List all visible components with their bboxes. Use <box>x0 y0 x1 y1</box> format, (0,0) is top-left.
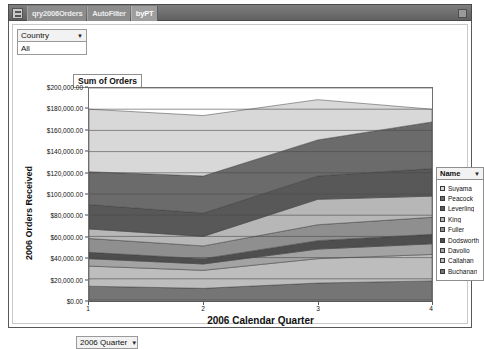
pivotchart-canvas: Country ▼ All Sum of Orders 2006 Orders … <box>12 24 468 324</box>
legend-item[interactable]: Buchanan <box>440 266 481 276</box>
x-axis-tick-label: 4 <box>429 305 433 312</box>
country-field-button[interactable]: Country ▼ <box>17 29 87 42</box>
legend-swatch-icon <box>440 196 445 201</box>
legend-item-label: Dodsworth <box>448 237 479 244</box>
legend-item-label: Leverling <box>448 205 474 212</box>
stacked-area-chart <box>89 88 432 300</box>
legend-item[interactable]: Peacock <box>440 193 481 203</box>
chevron-down-icon[interactable]: ▼ <box>131 340 137 346</box>
chart-legend: Name ▼ SuyamaPeacockLeverlingKingFullerD… <box>436 167 484 281</box>
filter-field-country: Country ▼ All <box>17 29 87 55</box>
window-menu-icon[interactable] <box>12 8 23 19</box>
legend-item[interactable]: King <box>440 214 481 224</box>
legend-item-label: Suyama <box>448 185 472 192</box>
legend-field-button[interactable]: Name ▼ <box>436 167 484 180</box>
y-axis-tick-label: $100,000.00 <box>47 191 83 198</box>
category-field-quarter: 2006 Quarter ▼ <box>76 336 138 349</box>
window-close-icon[interactable] <box>458 9 467 18</box>
legend-item-label: Buchanan <box>448 268 477 275</box>
y-axis-tick-label: $80,000.00 <box>50 212 83 219</box>
view-tab-bypt[interactable]: byPT <box>131 6 159 21</box>
legend-item[interactable]: Suyama <box>440 183 481 193</box>
legend-swatch-icon <box>440 206 445 211</box>
chevron-down-icon[interactable]: ▼ <box>474 171 480 177</box>
y-axis-tick-label: $120,000.00 <box>47 169 83 176</box>
x-axis-line <box>88 301 433 302</box>
legend-item-label: Fuller <box>448 226 464 233</box>
y-axis-ticks: $200,000.00$180,000.00$160,000.00$140,00… <box>37 85 85 301</box>
y-axis-tick-label: $0.00 <box>67 298 83 305</box>
y-axis-title: 2006 Orders Received <box>22 143 36 283</box>
y-axis-tick-label: $40,000.00 <box>50 255 83 262</box>
window-titlebar: qry2006OrdersAutoFilterbyPT <box>8 4 472 21</box>
legend-items: SuyamaPeacockLeverlingKingFullerDodswort… <box>436 180 484 281</box>
view-tab-qry2006orders[interactable]: qry2006Orders <box>27 6 86 21</box>
legend-item[interactable]: Davolio <box>440 245 481 255</box>
legend-item[interactable]: Dodsworth <box>440 235 481 245</box>
legend-swatch-icon <box>440 258 445 263</box>
x-axis-tick-label: 1 <box>86 305 90 312</box>
x-axis-title: 2006 Calendar Quarter <box>88 315 433 326</box>
legend-item[interactable]: Fuller <box>440 225 481 235</box>
legend-item-label: Callahan <box>448 257 474 264</box>
country-filter-value[interactable]: All <box>17 42 87 55</box>
view-tab-autofilter[interactable]: AutoFilter <box>87 6 129 21</box>
chevron-down-icon[interactable]: ▼ <box>77 33 83 39</box>
legend-swatch-icon <box>440 227 445 232</box>
window-client-area: Country ▼ All Sum of Orders 2006 Orders … <box>8 21 472 328</box>
y-axis-tick-label: $140,000.00 <box>47 148 83 155</box>
legend-swatch-icon <box>440 238 445 243</box>
legend-field-label: Name <box>440 168 460 179</box>
legend-item-label: King <box>448 216 461 223</box>
legend-item-label: Peacock <box>448 195 473 202</box>
y-axis-tick-label: $60,000.00 <box>50 233 83 240</box>
quarter-field-button[interactable]: 2006 Quarter ▼ <box>76 336 138 349</box>
y-axis-tick-label: $20,000.00 <box>50 276 83 283</box>
legend-swatch-icon <box>440 186 445 191</box>
plot-area[interactable] <box>88 87 433 301</box>
y-axis-tick-label: $200,000.00 <box>47 84 83 91</box>
legend-item[interactable]: Callahan <box>440 256 481 266</box>
country-field-label: Country <box>21 30 49 41</box>
legend-item[interactable]: Leverling <box>440 204 481 214</box>
x-axis-tick-label: 2 <box>201 305 205 312</box>
x-axis-tick-label: 3 <box>316 305 320 312</box>
legend-swatch-icon <box>440 217 445 222</box>
legend-swatch-icon <box>440 248 445 253</box>
y-axis-tick-label: $160,000.00 <box>47 126 83 133</box>
legend-item-label: Davolio <box>448 247 470 254</box>
legend-swatch-icon <box>440 269 445 274</box>
y-axis-tick-label: $180,000.00 <box>47 105 83 112</box>
quarter-field-label: 2006 Quarter <box>80 337 127 348</box>
